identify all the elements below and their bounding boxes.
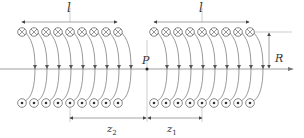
coil-top-cross-icon	[114, 28, 123, 37]
coil-bottom-dot-icon	[66, 99, 75, 108]
coil-top-cross-icon	[150, 28, 159, 37]
coil-bottom-dot-icon	[198, 99, 207, 108]
coil-bottom-dot-icon	[210, 99, 219, 108]
z1-label: z1	[167, 124, 177, 137]
coil-bottom-dot-icon	[150, 99, 159, 108]
coil-bottom-dot-icon	[18, 99, 27, 108]
coil-top-cross-icon	[54, 28, 63, 37]
coil-top-cross-icon	[186, 28, 195, 37]
length-label-left: l	[67, 2, 71, 14]
coil-top-cross-icon	[42, 28, 51, 37]
coil-top-cross-icon	[246, 28, 255, 37]
z2-label: z2	[107, 124, 117, 137]
coil-top-cross-icon	[162, 28, 171, 37]
axis-arrow-icon	[288, 67, 294, 71]
coil-bottom-dot-icon	[90, 99, 99, 108]
coil-bottom-dot-icon	[246, 99, 255, 108]
solenoid-right	[150, 28, 265, 108]
solenoid-left	[18, 28, 133, 108]
coil-bottom-dot-icon	[54, 99, 63, 108]
coil-top-cross-icon	[174, 28, 183, 37]
coil-bottom-dot-icon	[114, 99, 123, 108]
point-p-label: P	[142, 55, 149, 66]
coil-top-cross-icon	[198, 28, 207, 37]
coil-bottom-dot-icon	[42, 99, 51, 108]
coil-top-cross-icon	[234, 28, 243, 37]
length-label-right: l	[199, 2, 203, 14]
coil-bottom-dot-icon	[102, 99, 111, 108]
solenoid-diagram	[0, 0, 304, 138]
coil-top-cross-icon	[30, 28, 39, 37]
coil-top-cross-icon	[222, 28, 231, 37]
coil-bottom-dot-icon	[78, 99, 87, 108]
coil-top-cross-icon	[102, 28, 111, 37]
coil-top-cross-icon	[18, 28, 27, 37]
coil-bottom-dot-icon	[234, 99, 243, 108]
radius-label: R	[275, 53, 283, 64]
coil-bottom-dot-icon	[162, 99, 171, 108]
coil-bottom-dot-icon	[174, 99, 183, 108]
coil-top-cross-icon	[78, 28, 87, 37]
point-p-marker	[146, 68, 149, 71]
coil-bottom-dot-icon	[222, 99, 231, 108]
coil-top-cross-icon	[90, 28, 99, 37]
coil-bottom-dot-icon	[30, 99, 39, 108]
coil-top-cross-icon	[210, 28, 219, 37]
coil-top-cross-icon	[66, 28, 75, 37]
coil-bottom-dot-icon	[186, 99, 195, 108]
